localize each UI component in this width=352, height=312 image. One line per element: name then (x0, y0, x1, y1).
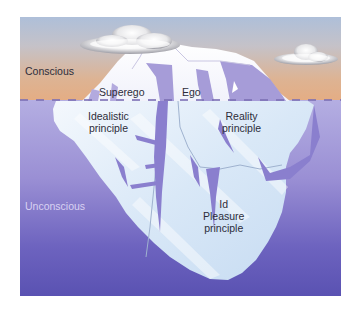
cloud-right (274, 44, 338, 65)
iceberg-diagram: Conscious Unconscious Superego Ego Ideal… (20, 17, 341, 296)
id-line: Id (203, 198, 244, 210)
label-id-pleasure-principle: Id Pleasure principle (203, 198, 244, 234)
label-ego: Ego (182, 86, 201, 98)
label-conscious: Conscious (25, 65, 74, 77)
idealistic-line1: Idealistic (88, 110, 129, 122)
pleasure-line2: principle (203, 222, 244, 234)
reality-line1: Reality (222, 110, 261, 122)
reality-line2: principle (222, 122, 261, 134)
label-superego: Superego (99, 86, 145, 98)
label-idealistic-principle: Idealistic principle (88, 110, 129, 134)
waterline-dashes (20, 99, 341, 101)
idealistic-line2: principle (88, 122, 129, 134)
label-unconscious: Unconscious (25, 200, 85, 212)
label-reality-principle: Reality principle (222, 110, 261, 134)
cloud-left (80, 25, 180, 54)
iceberg-illustration (20, 17, 341, 296)
pleasure-line1: Pleasure (203, 210, 244, 222)
